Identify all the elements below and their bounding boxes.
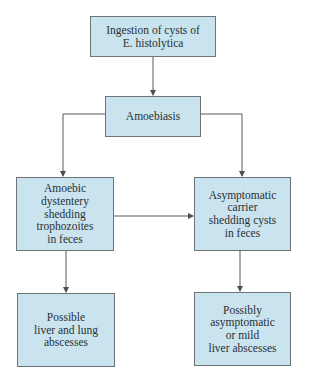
edge-amoebiasis-carrier <box>201 114 242 176</box>
node-ingestion: Ingestion of cysts of E. histolytica <box>90 16 216 57</box>
node-liver-lung-abscesses: Possible liver and lung abscesses <box>17 293 115 367</box>
edge-amoebiasis-dysentery <box>63 114 105 176</box>
node-amoebic-dysentery: Amoebic dystentery shedding trophozoites… <box>16 177 114 251</box>
node-asymptomatic-carrier: Asymptomatic carrier shedding cysts in f… <box>194 177 291 251</box>
node-amoebiasis: Amoebiasis <box>105 96 201 137</box>
node-mild-liver-abscesses: Possibly asymptomatic or mild liver absc… <box>194 292 291 366</box>
